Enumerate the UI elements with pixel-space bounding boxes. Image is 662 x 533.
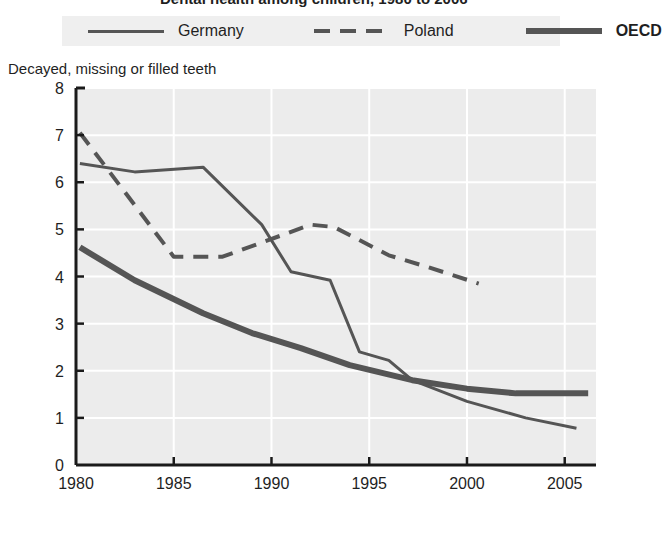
legend-label-oecd: OECD [616,22,662,40]
x-tick-label: 2000 [449,475,485,492]
y-tick-label: 1 [55,410,64,427]
y-tick-label: 8 [55,80,64,97]
x-tick-labels-group: 198019851990199520002005 [58,475,582,492]
y-tick-label: 5 [55,221,64,238]
y-tick-label: 2 [55,363,64,380]
x-tick-label: 1980 [58,475,94,492]
x-tick-label: 2005 [547,475,583,492]
y-tick-label: 6 [55,174,64,191]
x-tick-label: 1985 [156,475,192,492]
y-tick-label: 4 [55,269,64,286]
x-tick-label: 1990 [254,475,290,492]
y-tick-labels-group: 012345678 [55,80,64,474]
y-tick-label: 3 [55,316,64,333]
x-tick-label: 1995 [351,475,387,492]
y-tick-label: 7 [55,127,64,144]
y-tick-label: 0 [55,457,64,474]
